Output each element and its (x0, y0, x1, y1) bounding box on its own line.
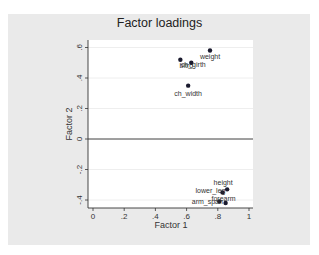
point-label: height (214, 179, 233, 187)
point-label: weight (199, 53, 220, 61)
x-axis-label: Factor 1 (154, 220, 187, 230)
point-label: ch_girth (181, 61, 206, 69)
y-tick-label: -.2 (75, 164, 84, 174)
plot-area: -.4-.20.2.4.60.2.4.6.81 weightbitroch_gi… (0, 0, 319, 255)
y-tick-label: .2 (75, 105, 84, 112)
x-tick-label: .8 (214, 212, 221, 221)
x-tick-label: .2 (121, 212, 128, 221)
y-tick-label: .4 (75, 74, 84, 81)
data-point (225, 187, 229, 191)
x-tick-label: 0 (91, 212, 96, 221)
point-label: ch_width (174, 90, 202, 98)
y-axis-label: Factor 2 (64, 107, 74, 140)
x-tick-label: 1 (247, 212, 252, 221)
y-tick-label: .6 (75, 44, 84, 51)
data-point (186, 83, 190, 87)
y-tick-label: 0 (75, 136, 84, 141)
point-label: forearm (212, 195, 236, 202)
y-tick-label: -.4 (75, 195, 84, 205)
